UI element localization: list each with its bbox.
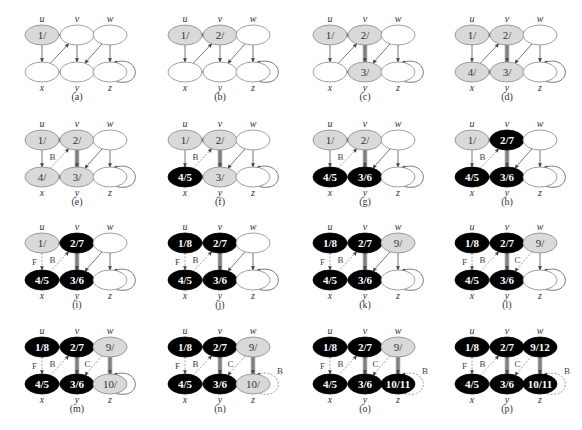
vertex-timestamp: 3/ — [503, 66, 513, 78]
vertex-name: x — [327, 394, 333, 405]
panel-caption: (a) — [71, 91, 82, 103]
edge-type-label: B — [193, 152, 199, 162]
edge-type-label: F — [320, 361, 325, 371]
vertex-timestamp: 1/ — [38, 134, 48, 146]
panel-caption: (g) — [359, 196, 371, 208]
dfs-panel: 1/u2/vw4/x3/yz(d) — [432, 0, 573, 105]
vertex-name: v — [363, 221, 368, 232]
panel-caption: (l) — [502, 299, 511, 311]
edge-type-label: B — [193, 359, 199, 369]
graph-edge — [50, 44, 68, 64]
vertex-name: x — [39, 394, 45, 405]
panel-caption: (m) — [70, 403, 84, 415]
vertex-name: w — [537, 221, 544, 232]
vertex-timestamp: 1/ — [181, 29, 191, 41]
vertex-name: v — [218, 118, 223, 129]
vertex-name: w — [107, 13, 114, 24]
vertex-name: u — [328, 118, 333, 129]
graph-edge — [85, 44, 102, 63]
edge-type-label: F — [32, 361, 37, 371]
vertex-timestamp: 4/ — [468, 66, 478, 78]
panel-graph: 1/uvwxyz(a) — [2, 0, 143, 105]
vertex-timestamp: 2/7 — [500, 341, 515, 353]
panel-graph: 1/u2/vw4/x3/yz(d) — [432, 0, 573, 105]
graph-edge — [85, 149, 102, 168]
vertex-timestamp: 3/6 — [213, 274, 228, 286]
vertex-w — [236, 233, 270, 253]
graph-edge — [373, 44, 390, 63]
dfs-panel: FB1/8u2/7v9/w4/5x3/6yz(k) — [290, 208, 431, 313]
dfs-panel: B1/u2/vw4/x3/yz(e) — [2, 105, 143, 210]
vertex-name: v — [505, 221, 510, 232]
vertex-timestamp: 2/ — [216, 29, 226, 41]
panel-caption: (p) — [501, 403, 513, 415]
vertex-timestamp: 4/5 — [323, 171, 338, 183]
vertex-z — [523, 167, 557, 187]
edge-type-label: C — [373, 359, 379, 369]
vertex-name: v — [363, 118, 368, 129]
vertex-name: x — [39, 187, 45, 198]
panel-graph: B1/u2/vw4/5x3/yz(f) — [145, 105, 286, 210]
edge-type-label: F — [32, 257, 37, 267]
vertex-name: u — [470, 325, 475, 336]
graph-edge — [85, 252, 102, 271]
vertex-name: u — [40, 118, 45, 129]
vertex-timestamp: 2/ — [73, 134, 83, 146]
vertex-timestamp: 1/8 — [465, 341, 480, 353]
graph-edge — [228, 149, 245, 168]
vertex-timestamp: 1/8 — [323, 341, 338, 353]
dfs-panel: 1/u2/vwxyz(b) — [145, 0, 286, 105]
vertex-z — [236, 62, 270, 82]
panel-caption: (c) — [359, 91, 370, 103]
dfs-panel: B1/u2/vw4/5x3/6yz(g) — [290, 105, 431, 210]
vertex-timestamp: 3/ — [216, 171, 226, 183]
vertex-x — [168, 62, 202, 82]
vertex-timestamp: 2/7 — [358, 341, 373, 353]
panel-graph: FB1/8u2/7v9/w4/5x3/6yz(k) — [290, 208, 431, 313]
vertex-name: x — [182, 82, 188, 93]
vertex-name: v — [75, 221, 80, 232]
vertex-w — [93, 25, 127, 45]
vertex-name: u — [328, 325, 333, 336]
vertex-name: w — [537, 13, 544, 24]
vertex-timestamp: 1/ — [468, 29, 478, 41]
vertex-name: z — [395, 394, 400, 405]
vertex-name: u — [328, 13, 333, 24]
vertex-name: w — [250, 118, 257, 129]
vertex-timestamp: 10/11 — [386, 378, 410, 390]
edge-type-label: F — [462, 257, 467, 267]
vertex-timestamp: 4/5 — [465, 274, 480, 286]
edge-type-label: C — [515, 359, 521, 369]
vertex-name: w — [395, 13, 402, 24]
vertex-name: u — [183, 325, 188, 336]
vertex-name: u — [40, 325, 45, 336]
vertex-timestamp: 3/6 — [500, 274, 515, 286]
vertex-w — [93, 233, 127, 253]
graph-edge — [515, 44, 532, 63]
vertex-timestamp: 2/7 — [70, 341, 85, 353]
vertex-timestamp: 10/ — [246, 378, 261, 390]
graph-edge — [228, 44, 245, 63]
vertex-timestamp: 9/ — [249, 341, 259, 353]
vertex-name: x — [327, 290, 333, 301]
vertex-timestamp: 10/11 — [528, 378, 552, 390]
vertex-name: z — [395, 290, 400, 301]
vertex-name: w — [250, 325, 257, 336]
vertex-name: v — [218, 325, 223, 336]
vertex-name: w — [537, 118, 544, 129]
panel-caption: (o) — [359, 403, 371, 415]
vertex-name: x — [182, 290, 188, 301]
dfs-panel: B1/u2/7vw4/5x3/6yz(h) — [432, 105, 573, 210]
vertex-name: v — [505, 118, 510, 129]
vertex-name: z — [537, 394, 542, 405]
vertex-name: z — [107, 82, 112, 93]
vertex-name: u — [470, 13, 475, 24]
edge-type-label: B — [480, 255, 486, 265]
vertex-name: v — [75, 13, 80, 24]
vertex-name: v — [363, 13, 368, 24]
panel-graph: B1/u2/7vw4/5x3/6yz(h) — [432, 105, 573, 210]
vertex-name: x — [469, 290, 475, 301]
vertex-w — [236, 25, 270, 45]
panel-caption: (b) — [214, 91, 226, 103]
panel-graph: FBCB1/8u2/7v9/w4/5x3/6y10/11z(o) — [290, 312, 431, 417]
